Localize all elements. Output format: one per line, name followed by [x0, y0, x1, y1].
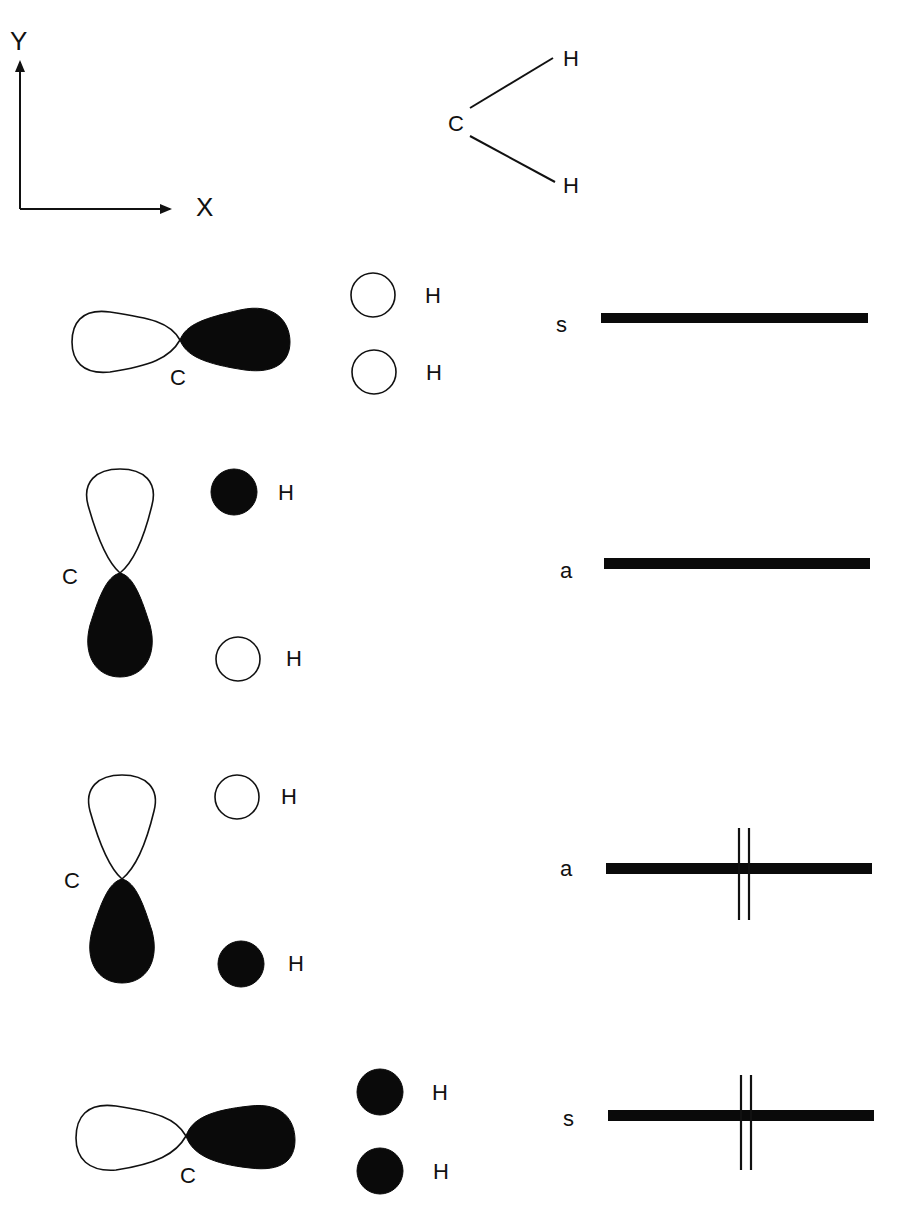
x-axis-label: X: [196, 192, 213, 222]
hydrogen-orbital-filled: [211, 469, 257, 515]
carbon-label: C: [170, 365, 186, 390]
hydrogen-orbital-filled: [357, 1148, 403, 1194]
energy-level-bar: [601, 313, 868, 323]
hydrogen-label: H: [425, 283, 441, 308]
hydrogen-label: H: [286, 646, 302, 671]
carbon-lobe-left-open: [72, 311, 180, 372]
c-h-bond-bottom: [470, 136, 555, 182]
carbon-lobe-top-open: [87, 469, 154, 573]
hydrogen-orbital-open: [351, 273, 395, 317]
orbital-row-4: C H H s: [76, 1069, 874, 1194]
carbon-lobe-bottom-filled: [88, 573, 153, 677]
carbon-lobe-right-filled: [186, 1105, 295, 1168]
carbon-lobe-right-filled: [180, 308, 290, 371]
hydrogen-label: H: [288, 951, 304, 976]
hydrogen-bottom-label: H: [563, 173, 579, 198]
hydrogen-orbital-filled: [357, 1069, 403, 1115]
carbon-lobe-top-open: [89, 775, 156, 879]
carbon-label: C: [64, 868, 80, 893]
orbital-row-1: C H H s: [72, 273, 868, 394]
carbon-atom-label: C: [448, 111, 464, 136]
carbene-mo-diagram: Y X C H H C H H s C H H a C: [0, 0, 899, 1210]
energy-level-bar: [604, 558, 870, 569]
ch2-structure: C H H: [448, 46, 579, 198]
hydrogen-label: H: [281, 784, 297, 809]
hydrogen-orbital-filled: [218, 941, 264, 987]
hydrogen-label: H: [278, 480, 294, 505]
symmetry-label: s: [563, 1106, 574, 1131]
hydrogen-label: H: [433, 1159, 449, 1184]
hydrogen-top-label: H: [563, 46, 579, 71]
coordinate-axes: Y X: [10, 26, 213, 222]
orbital-row-3: C H H a: [64, 775, 872, 987]
hydrogen-orbital-open: [216, 637, 260, 681]
y-axis-label: Y: [10, 26, 27, 56]
hydrogen-orbital-open: [215, 775, 259, 819]
carbon-label: C: [180, 1163, 196, 1188]
symmetry-label: s: [556, 312, 567, 337]
symmetry-label: a: [560, 558, 573, 583]
orbital-row-2: C H H a: [62, 469, 870, 681]
symmetry-label: a: [560, 856, 573, 881]
carbon-lobe-bottom-filled: [90, 879, 155, 983]
hydrogen-label: H: [432, 1080, 448, 1105]
hydrogen-orbital-open: [352, 350, 396, 394]
hydrogen-label: H: [426, 360, 442, 385]
c-h-bond-top: [470, 58, 553, 108]
carbon-label: C: [62, 564, 78, 589]
carbon-lobe-left-open: [76, 1105, 186, 1170]
